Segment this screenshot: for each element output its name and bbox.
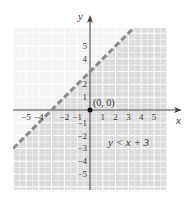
x-tick-label: −2 xyxy=(60,112,70,122)
y-tick-label: 5 xyxy=(83,41,88,51)
x-tick-label: 2 xyxy=(113,112,118,122)
x-axis-label: x xyxy=(175,114,181,126)
test-point xyxy=(88,108,93,113)
y-tick-label: 1 xyxy=(83,92,88,102)
y-tick-label: 2 xyxy=(83,79,88,89)
inequality-label: y < x + 3 xyxy=(107,136,150,148)
x-tick-label: 5 xyxy=(152,112,157,122)
y-tick-label: 4 xyxy=(83,54,88,64)
x-tick-label: 4 xyxy=(139,112,144,122)
x-tick-label: 3 xyxy=(126,112,131,122)
x-tick-label: 1 xyxy=(101,112,106,122)
x-tick-label: −5 xyxy=(21,112,31,122)
x-tick-label: −4 xyxy=(34,112,44,122)
y-tick-label: −2 xyxy=(77,131,87,141)
y-axis-label: y xyxy=(77,10,83,22)
y-tick-label: −1 xyxy=(77,118,87,128)
y-tick-label: −4 xyxy=(77,156,87,166)
test-point-label: (0, 0) xyxy=(93,97,115,109)
inequality-graph: y x −5−4−2−112345 5421−1−2−3−4−5 (0, 0) … xyxy=(0,0,191,197)
y-tick-label: −3 xyxy=(77,143,87,153)
y-tick-label: −5 xyxy=(77,169,87,179)
